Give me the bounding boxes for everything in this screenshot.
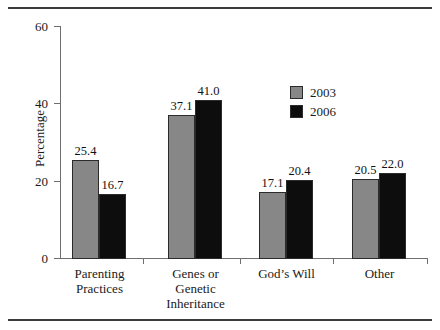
bar-value-2006-gods-will: 20.4 xyxy=(274,165,325,178)
bar-2006-genes-or-genetic-inheritance xyxy=(195,100,222,259)
bar-2006-gods-will xyxy=(286,180,313,259)
y-tick-20 xyxy=(54,181,61,182)
y-tick-40 xyxy=(54,103,61,104)
bar-2003-parenting-practices xyxy=(72,160,99,259)
bar-value-2006-genes-or-genetic-inheritance: 41.0 xyxy=(183,85,234,98)
bar-value-2003-parenting-practices: 25.4 xyxy=(60,145,111,158)
bar-chart: 60 40 20 0 Percentage 25.4 16.7 37.1 41.… xyxy=(0,0,440,330)
y-tick-label-60: 60 xyxy=(8,20,48,33)
y-tick-0 xyxy=(54,258,61,259)
y-tick-60 xyxy=(54,26,61,27)
y-axis-title: Percentage xyxy=(33,84,46,194)
legend-swatch-2003-icon xyxy=(290,86,303,99)
x-tick-sep-1 xyxy=(143,258,144,264)
bar-value-2006-parenting-practices: 16.7 xyxy=(87,179,138,192)
bar-2006-parenting-practices xyxy=(99,194,126,259)
x-category-label-genes-or-genetic-inheritance: Genes or Genetic Inheritance xyxy=(148,266,243,311)
bar-2006-other xyxy=(379,173,406,259)
x-category-label-other: Other xyxy=(332,266,427,281)
x-tick-sep-3 xyxy=(333,258,334,264)
legend-label-2003: 2003 xyxy=(310,84,336,101)
bar-2003-gods-will xyxy=(259,192,286,259)
x-category-label-parenting-practices: Parenting Practices xyxy=(52,266,147,296)
bar-2003-other xyxy=(352,179,379,259)
legend-label-2006: 2006 xyxy=(310,103,336,120)
x-tick-sep-4 xyxy=(427,258,428,264)
bar-2003-genes-or-genetic-inheritance xyxy=(168,115,195,259)
legend-swatch-2006-icon xyxy=(290,105,303,118)
y-tick-label-0: 0 xyxy=(8,252,48,265)
x-tick-sep-2 xyxy=(240,258,241,264)
bar-value-2006-other: 22.0 xyxy=(367,158,418,171)
x-category-label-gods-will: God’s Will xyxy=(239,266,334,281)
y-axis-line xyxy=(60,26,61,258)
